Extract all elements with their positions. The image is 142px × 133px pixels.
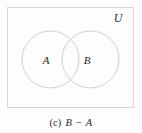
figure-caption: (c) B − A [0, 112, 142, 133]
caption-tag: (c) [50, 117, 62, 128]
venn-diagram-canvas: U A B [0, 0, 142, 112]
set-a-label: A [42, 54, 50, 66]
set-b-label: B [84, 54, 91, 66]
universe-label: U [114, 11, 124, 25]
venn-diagram-figure: U A B (c) B − A [0, 0, 142, 133]
caption-expression: B − A [65, 117, 92, 128]
